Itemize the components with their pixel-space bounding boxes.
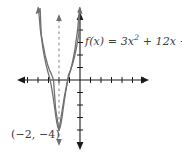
y-axis-bottom-arrow-icon	[77, 142, 84, 150]
function-equation-label: f(x) = 3x2 + 12x + 8	[85, 35, 182, 48]
equation-text: f(x) = 3x	[85, 35, 134, 48]
equation-text-suffix: + 12x + 8	[139, 35, 182, 48]
vertex-coordinate-label: (−2, −4)	[11, 128, 60, 141]
parabola-curve-right-branch	[59, 9, 80, 131]
figure-container: f(x) = 3x2 + 12x + 8 (−2, −4)	[0, 0, 182, 158]
parabola-curve-left-branch	[39, 9, 60, 131]
parabola-right-arrow-icon	[77, 7, 82, 15]
x-axis-right-arrow-icon	[141, 77, 149, 84]
x-axis-left-arrow-icon	[17, 77, 25, 84]
axis-of-symmetry-top-arrow-icon	[56, 14, 62, 21]
